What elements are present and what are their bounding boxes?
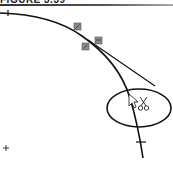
plus-icon [3, 145, 9, 151]
spline-curve[interactable] [0, 13, 143, 158]
tangent-constraint-icon[interactable] [95, 37, 102, 44]
scissors-icon [138, 97, 148, 110]
trim-region-ellipse [107, 89, 171, 127]
arrow-cursor-icon [129, 94, 138, 108]
sketch-canvas[interactable] [0, 0, 173, 186]
tangent-constraint-icon[interactable] [74, 23, 81, 30]
coincident-constraint-icon[interactable] [82, 43, 89, 50]
